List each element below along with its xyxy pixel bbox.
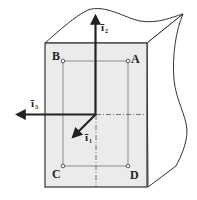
svg-text:1: 1 — [89, 138, 92, 144]
label-b: B — [52, 49, 60, 63]
label-d: D — [130, 168, 139, 182]
label-c: C — [52, 167, 61, 181]
side-face-outline — [147, 14, 187, 187]
point-b — [61, 59, 65, 63]
point-c — [61, 164, 65, 168]
label-i3: ī 3 — [30, 97, 38, 110]
point-a — [126, 59, 130, 63]
svg-text:3: 3 — [35, 104, 38, 110]
label-a: A — [131, 52, 140, 66]
svg-text:2: 2 — [105, 28, 108, 34]
block-axes-diagram: A B C D ī 2 ī 3 ī 1 — [0, 0, 197, 200]
